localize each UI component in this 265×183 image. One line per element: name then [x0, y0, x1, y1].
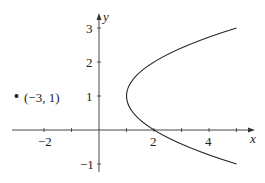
tick-label-x-m2: −2 — [38, 135, 52, 148]
tick-label-y-m1: −1 — [80, 158, 94, 171]
vertex-point — [15, 94, 19, 98]
x-axis-label: x — [250, 132, 256, 145]
parabola-curve — [127, 28, 237, 164]
tick-label-y-2: 2 — [86, 56, 93, 69]
tick-label-y-3: 3 — [86, 22, 93, 35]
tick-label-x-4: 4 — [205, 135, 212, 148]
y-axis-label: y — [103, 10, 109, 23]
y-axis-arrow-icon — [97, 13, 102, 20]
vertex-label: (−3, 1) — [24, 91, 60, 104]
tick-label-y-1: 1 — [86, 90, 93, 103]
tick-label-x-2: 2 — [150, 135, 157, 148]
